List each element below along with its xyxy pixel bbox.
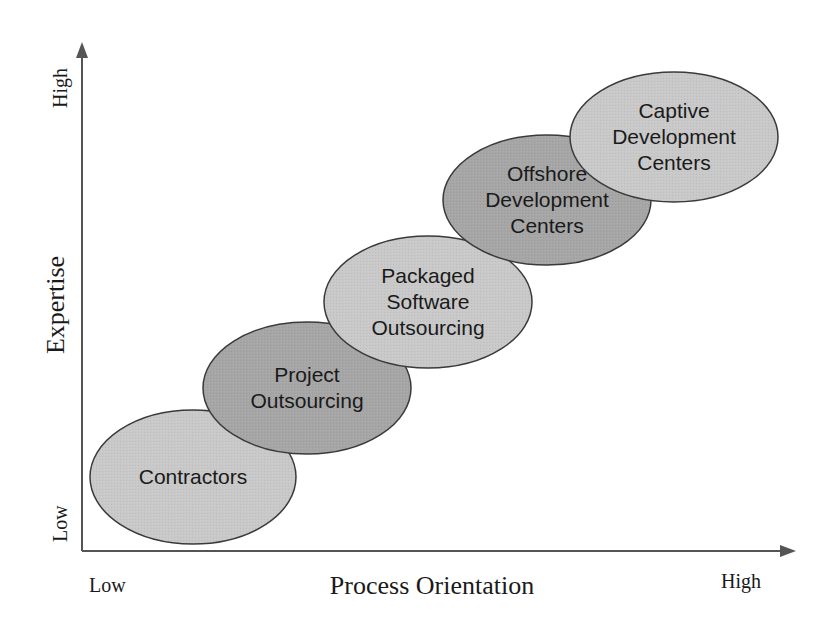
x-axis-low-label: Low [89, 574, 126, 596]
y-axis-arrow-icon [76, 42, 88, 58]
stage-label-line: Outsourcing [250, 389, 363, 412]
stage-captive-development-centers: CaptiveDevelopmentCenters [570, 72, 778, 202]
stage-ellipses: ContractorsProjectOutsourcingPackagedSof… [90, 72, 778, 544]
x-axis-title: Process Orientation [330, 571, 534, 600]
stage-label-line: Packaged [381, 264, 474, 287]
diagram-canvas: ContractorsProjectOutsourcingPackagedSof… [0, 0, 838, 629]
y-axis-high-label: High [49, 68, 72, 108]
stage-label-line: Captive [638, 99, 709, 122]
stage-label-line: Software [387, 290, 470, 313]
stage-label-line: Centers [637, 151, 711, 174]
stage-label-line: Development [612, 125, 736, 148]
y-axis-title: Expertise [41, 256, 70, 354]
x-axis-arrow-icon [780, 545, 796, 557]
stage-label-line: Development [485, 188, 609, 211]
stage-label-line: Outsourcing [371, 316, 484, 339]
x-axis-high-label: High [721, 570, 761, 593]
stage-label-line: Project [274, 363, 340, 386]
stage-label-line: Contractors [139, 465, 248, 488]
y-axis-low-label: Low [49, 505, 71, 542]
x-axis: Low Process Orientation High [82, 545, 796, 600]
stage-label-line: Offshore [507, 162, 587, 185]
y-axis: High Expertise Low [41, 42, 88, 551]
stage-label-line: Centers [510, 214, 584, 237]
